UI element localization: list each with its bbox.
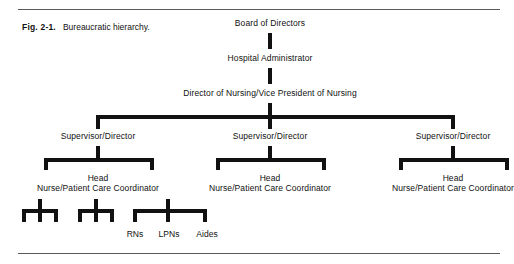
bracket-head-nurse-left (44, 158, 154, 162)
connector-administrator-to-don (268, 68, 272, 84)
node-head-nurse-left: Head Nurse/Patient Care Coordinator (37, 173, 159, 193)
bracket-head-nurse-center (216, 158, 326, 162)
head-nurse-right-line1: Head (392, 173, 514, 183)
node-supervisor-center: Supervisor/Director (233, 131, 308, 142)
figure-top-rule (18, 9, 500, 10)
head-nurse-left-line1: Head (37, 173, 159, 183)
node-supervisor-right: Supervisor/Director (416, 131, 491, 142)
bracket-left-arm-right (150, 158, 154, 170)
head-nurse-left-line2: Nurse/Patient Care Coordinator (37, 183, 159, 193)
node-aides: Aides (196, 229, 217, 239)
figure-bottom-rule (18, 253, 500, 254)
head-nurse-center-line2: Nurse/Patient Care Coordinator (209, 183, 331, 193)
connector-supervisor-horizontal-bar (96, 115, 455, 119)
figure-caption: Fig. 2-1.Bureaucratic hierarchy. (22, 22, 150, 33)
bracket-left-arm-left (44, 158, 48, 170)
bracket-staff-c (133, 209, 207, 213)
node-board-of-directors: Board of Directors (235, 18, 305, 29)
connector-supervisor-drop-right (451, 115, 455, 129)
figure-caption-text: Bureaucratic hierarchy. (63, 22, 150, 32)
bracket-staff-b-arm-left (78, 209, 82, 222)
bracket-staff-b-arm-center (94, 209, 98, 222)
bracket-head-nurse-right (399, 158, 509, 162)
node-rns: RNs (127, 229, 144, 239)
node-supervisor-left: Supervisor/Director (61, 131, 136, 142)
bracket-staff-b-arm-right (110, 209, 114, 222)
head-nurse-right-line2: Nurse/Patient Care Coordinator (392, 183, 514, 193)
figure-number: Fig. 2-1. (22, 22, 56, 32)
bracket-staff-c-arm-lpns (166, 209, 170, 222)
connector-supervisor-drop-left (96, 115, 100, 129)
connector-supervisor-drop-center (268, 115, 272, 129)
bracket-right-arm-right (505, 158, 509, 170)
bracket-center-arm-left (216, 158, 220, 170)
head-nurse-center-line1: Head (209, 173, 331, 183)
bracket-staff-c-arm-aides (203, 209, 207, 222)
node-director-of-nursing: Director of Nursing/Vice President of Nu… (183, 88, 356, 99)
bracket-center-arm-right (322, 158, 326, 170)
connector-board-to-administrator (268, 33, 272, 49)
node-lpns: LPNs (159, 229, 180, 239)
bracket-staff-a-arm-left (22, 209, 26, 222)
bracket-right-arm-left (399, 158, 403, 170)
node-hospital-administrator: Hospital Administrator (228, 53, 313, 64)
node-head-nurse-right: Head Nurse/Patient Care Coordinator (392, 173, 514, 193)
bracket-staff-a-arm-right (54, 209, 58, 222)
node-head-nurse-center: Head Nurse/Patient Care Coordinator (209, 173, 331, 193)
bracket-staff-a-arm-center (38, 209, 42, 222)
bracket-staff-c-arm-rns (133, 209, 137, 222)
